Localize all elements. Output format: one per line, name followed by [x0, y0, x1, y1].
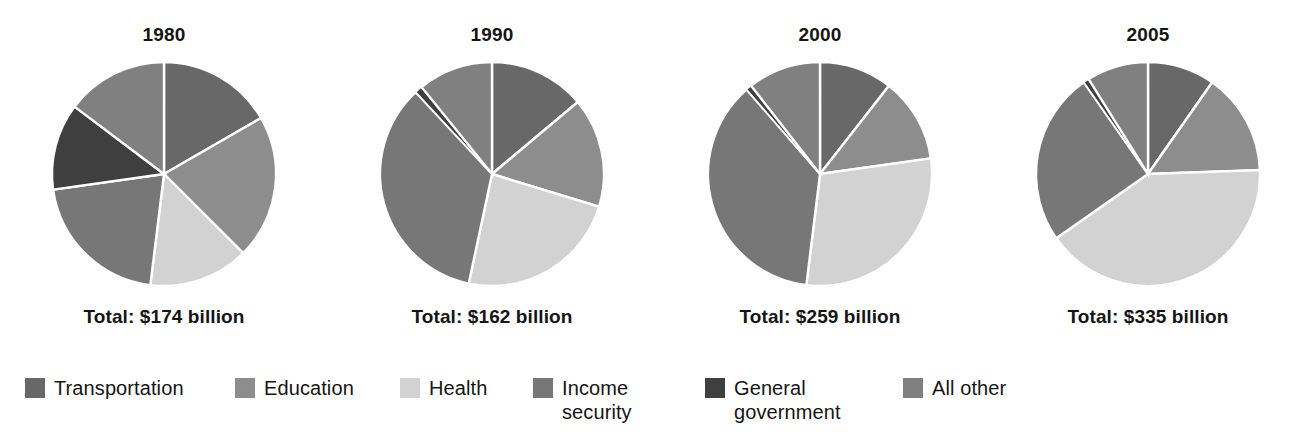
pie-panels-row: 1980Total: $174 billion1990Total: $162 b… [0, 0, 1314, 350]
pie-chart-2000 [702, 56, 938, 292]
pie-svg [374, 56, 610, 292]
legend-item-education[interactable]: Education [235, 376, 354, 400]
pie-chart-figure: 1980Total: $174 billion1990Total: $162 b… [0, 0, 1314, 444]
pie-panel-title: 2000 [798, 24, 841, 46]
pie-panel-total: Total: $162 billion [412, 306, 573, 328]
legend-swatch-icon [903, 378, 923, 398]
pie-panel-total: Total: $259 billion [740, 306, 901, 328]
legend-item-label: All other [932, 376, 1006, 400]
legend-item-transportation[interactable]: Transportation [25, 376, 184, 400]
legend-swatch-icon [235, 378, 255, 398]
pie-slice-health [806, 158, 932, 286]
pie-panel-total: Total: $335 billion [1068, 306, 1229, 328]
legend-item-label: Education [264, 376, 354, 400]
legend-item-all-other[interactable]: All other [903, 376, 1006, 400]
legend-swatch-icon [705, 378, 725, 398]
legend-item-health[interactable]: Health [400, 376, 487, 400]
pie-svg [46, 56, 282, 292]
pie-panel-1990: 1990Total: $162 billion [328, 0, 656, 350]
pie-panel-2000: 2000Total: $259 billion [656, 0, 984, 350]
pie-panel-2005: 2005Total: $335 billion [984, 0, 1312, 350]
pie-panel-title: 2005 [1126, 24, 1169, 46]
pie-svg [1030, 56, 1266, 292]
pie-chart-2005 [1030, 56, 1266, 292]
pie-panel-title: 1980 [142, 24, 185, 46]
pie-panel-1980: 1980Total: $174 billion [0, 0, 328, 350]
legend-item-label: Health [429, 376, 487, 400]
legend-item-income-security[interactable]: Income security [533, 376, 632, 424]
legend-swatch-icon [400, 378, 420, 398]
pie-panel-title: 1990 [470, 24, 513, 46]
legend-item-label: Income security [562, 376, 632, 424]
legend-item-general-government[interactable]: General government [705, 376, 841, 424]
pie-svg [702, 56, 938, 292]
legend-item-label: General government [734, 376, 841, 424]
pie-chart-1990 [374, 56, 610, 292]
legend-swatch-icon [25, 378, 45, 398]
pie-chart-1980 [46, 56, 282, 292]
legend-item-label: Transportation [54, 376, 184, 400]
chart-legend: TransportationEducationHealthIncome secu… [0, 370, 1314, 444]
legend-swatch-icon [533, 378, 553, 398]
pie-panel-total: Total: $174 billion [84, 306, 245, 328]
pie-slice-income-security [53, 174, 164, 285]
